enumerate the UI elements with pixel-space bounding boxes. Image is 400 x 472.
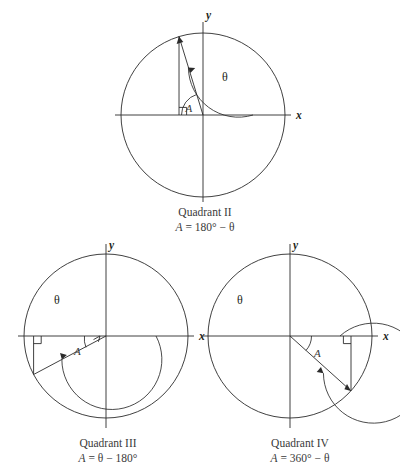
formula-lhs: A — [176, 221, 183, 233]
quadrant-formula: A = 180° − θ — [105, 220, 305, 235]
quadrant-name: Quadrant IV — [200, 436, 400, 451]
caption-quadrant-3: Quadrant III A = θ − 180° — [8, 436, 208, 466]
terminal-ray — [290, 336, 351, 391]
quadrant-4-svg: x y θ A — [200, 240, 400, 436]
formula-lhs: A — [79, 452, 86, 464]
formula-eq: = — [183, 221, 195, 233]
theta-label: θ — [222, 70, 228, 84]
theta-arc-arrowhead — [317, 367, 324, 373]
quadrant-name: Quadrant II — [105, 205, 305, 220]
y-axis-label: y — [291, 239, 299, 252]
formula-rhs: 180° − θ — [195, 221, 235, 233]
terminal-ray — [34, 336, 106, 375]
reference-angle-label: A — [73, 345, 81, 357]
caption-quadrant-4: Quadrant IV A = 360° − θ — [200, 436, 400, 466]
quadrant-2-svg: x y θ A — [105, 2, 305, 202]
reference-angle-label: A — [185, 102, 193, 114]
y-axis-label: y — [204, 9, 212, 22]
caption-quadrant-2: Quadrant II A = 180° − θ — [105, 205, 305, 235]
x-axis-label: x — [295, 109, 302, 121]
formula-rhs: θ − 180° — [98, 452, 138, 464]
theta-label: θ — [237, 293, 243, 307]
formula-lhs: A — [271, 452, 278, 464]
diagram-quadrant-2: x y θ A Quadrant II A = 180° − θ — [105, 2, 305, 234]
quadrant-formula: A = θ − 180° — [8, 451, 208, 466]
y-axis-label: y — [107, 239, 115, 252]
right-angle-marker — [343, 336, 351, 344]
reference-angle-arc — [306, 336, 312, 350]
diagram-quadrant-4: x y θ A Quadrant IV A = 360° − θ — [200, 240, 400, 470]
theta-arc — [188, 67, 253, 117]
reference-angle-arc — [84, 336, 86, 347]
quadrant-3-svg: x y θ A — [8, 240, 208, 436]
reference-angle-label: A — [313, 347, 321, 359]
formula-rhs: 360° − θ — [290, 452, 330, 464]
x-axis-label: x — [382, 330, 389, 342]
formula-eq: = — [278, 452, 290, 464]
right-angle-marker — [34, 336, 42, 344]
theta-label: θ — [54, 293, 60, 307]
terminal-ray-arrowhead — [177, 37, 184, 44]
quadrant-formula: A = 360° − θ — [200, 451, 400, 466]
diagram-quadrant-3: x y θ A Quadrant III A = θ − 180° — [8, 240, 208, 470]
formula-eq: = — [86, 452, 98, 464]
quadrant-name: Quadrant III — [8, 436, 208, 451]
terminal-ray-arrowhead — [344, 384, 351, 391]
